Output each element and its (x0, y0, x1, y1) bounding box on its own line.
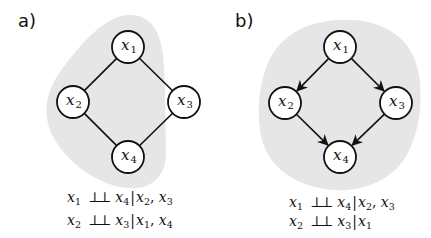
panel-a-label: a) (18, 12, 36, 30)
panel-a-node-x1: x1 (112, 31, 144, 63)
panel-b-statement-2: x2⊥⊥x3|x1 (289, 214, 372, 228)
panel-b-statement-1: x1⊥⊥x4|x2, x3 (289, 195, 395, 209)
panel-a-statement-2: x2⊥⊥x3|x1, x4 (67, 213, 173, 227)
panel-b-node-x1: x1 (324, 31, 356, 63)
panel-b-label: b) (235, 12, 253, 30)
panel-b-node-x2: x2 (269, 87, 301, 119)
panel-b-node-x3: x3 (380, 87, 412, 119)
panel-b-node-x4: x4 (324, 141, 356, 173)
panel-a-node-x3: x3 (168, 86, 200, 118)
panel-a-node-x2: x2 (57, 86, 89, 118)
panel-a-statement-1: x1⊥⊥x4|x2, x3 (67, 190, 173, 204)
figure: x1x2x3x4x1x2x3x4 a) b) x1⊥⊥x4|x2, x3 x2⊥… (0, 0, 431, 238)
panel-a-node-x4: x4 (112, 141, 144, 173)
